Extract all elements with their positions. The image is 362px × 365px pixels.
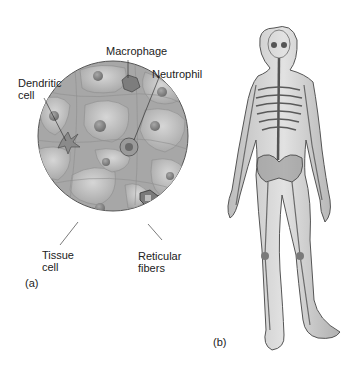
label-reticular-fibers: Reticular fibers bbox=[138, 250, 181, 274]
label-dendritic-cell: Dendritic cell bbox=[18, 77, 61, 101]
label-neutrophil: Neutrophil bbox=[152, 68, 202, 80]
label-tissue-cell: Tissue cell bbox=[42, 249, 74, 273]
diagram-canvas bbox=[0, 0, 362, 365]
panel-a-tag: (a) bbox=[25, 277, 38, 289]
panel-b-tag: (b) bbox=[213, 336, 226, 348]
human-figure bbox=[228, 27, 340, 351]
label-macrophage: Macrophage bbox=[106, 45, 167, 57]
